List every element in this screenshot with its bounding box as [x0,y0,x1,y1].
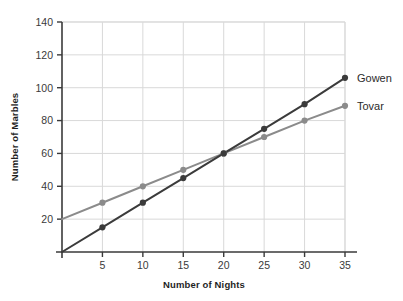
data-point [301,117,307,123]
data-point [180,167,186,173]
data-series-layer [62,75,348,252]
data-point [180,175,186,181]
data-point [99,200,105,206]
x-tick-label: 20 [218,259,230,271]
data-point [99,224,105,230]
y-tick-label: 80 [41,114,53,126]
data-point [140,183,146,189]
y-tick-label: 40 [41,180,53,192]
x-tick-label: 10 [137,259,149,271]
data-point [301,101,307,107]
chart-canvas: 20406080100120140 5101520253035 GowenTov… [0,0,403,301]
y-axis-tick-labels: 20406080100120140 [35,16,53,225]
x-tick-label: 30 [299,259,311,271]
legend-label-gowen: Gowen [357,72,392,84]
x-axis-tick-labels: 5101520253035 [100,259,351,271]
x-tick-label: 15 [177,259,189,271]
x-tick-label: 25 [258,259,270,271]
y-axis-title: Number of Marbles [9,93,20,182]
x-tick-label: 5 [100,259,106,271]
line-chart: 20406080100120140 5101520253035 GowenTov… [0,0,403,301]
data-point [342,75,348,81]
x-axis-title: Number of Nights [163,279,245,290]
legend-label-tovar: Tovar [357,100,384,112]
chart-legend: GowenTovar [357,72,392,112]
data-point [221,150,227,156]
data-point [342,103,348,109]
y-tick-label: 20 [41,213,53,225]
y-tick-label: 60 [41,147,53,159]
vertical-gridlines [102,22,345,252]
x-tick-label: 35 [339,259,351,271]
data-point [261,134,267,140]
data-point [140,200,146,206]
y-tick-label: 120 [35,49,53,61]
y-tick-label: 140 [35,16,53,28]
data-point [261,126,267,132]
y-tick-label: 100 [35,82,53,94]
